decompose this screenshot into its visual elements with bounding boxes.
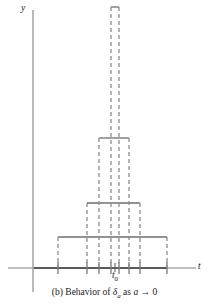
pulse-1 bbox=[58, 237, 167, 268]
caption-prefix: (b) Behavior of bbox=[52, 287, 113, 297]
pulse-function-plot bbox=[0, 0, 209, 305]
t0-subscript: 0 bbox=[115, 275, 119, 283]
y-axis-label: y bbox=[21, 3, 25, 13]
caption-delta: δa bbox=[113, 287, 121, 297]
t0-tick-label: t0 bbox=[104, 270, 126, 283]
figure-container: y t t0 (b) Behavior of δa as a → 0 bbox=[0, 0, 209, 305]
pulse-2 bbox=[87, 203, 140, 268]
caption-mid: as bbox=[121, 287, 134, 297]
figure-caption: (b) Behavior of δa as a → 0 bbox=[0, 287, 209, 300]
caption-arrow: → 0 bbox=[138, 287, 157, 297]
t-axis-label: t bbox=[198, 261, 201, 271]
